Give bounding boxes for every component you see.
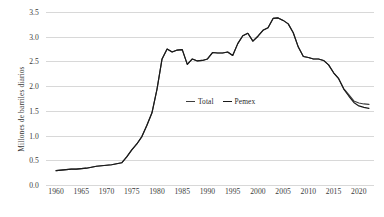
x-axis-tick: 1980 [149,187,165,196]
x-axis-tick-labels: 1960196519701975198019851990199520002005… [46,187,374,207]
legend-item-pemex[interactable]: Pemex [223,98,256,105]
x-axis-tick: 1970 [99,187,115,196]
gridline [46,185,374,186]
series-line-pemex [56,18,369,171]
y-axis-tick: 3.5 [29,8,39,17]
x-axis-tick: 1960 [48,187,64,196]
y-axis-tick: 2.0 [29,82,39,91]
x-axis-tick: 1985 [174,187,190,196]
x-axis-tick: 2020 [351,187,367,196]
y-axis-tick: 3.0 [29,32,39,41]
x-axis-tick: 2005 [275,187,291,196]
legend-label: Pemex [235,98,256,105]
x-axis-tick: 1975 [124,187,140,196]
x-axis-tick: 1965 [74,187,90,196]
y-axis-tick: 0.5 [29,156,39,165]
y-axis-tick: 1.0 [29,131,39,140]
legend-swatch-icon [223,101,232,102]
y-axis-tick: 0.0 [29,181,39,190]
series-line-total [56,18,369,171]
legend-swatch-icon [186,101,195,102]
x-axis-tick: 2000 [250,187,266,196]
x-axis-tick: 1995 [225,187,241,196]
legend-label: Total [198,98,214,105]
chart-figure: Millones de barriles diarios 0.00.51.01.… [0,0,384,217]
y-axis-tick: 2.5 [29,57,39,66]
x-axis-tick: 2010 [301,187,317,196]
x-axis-tick: 1990 [200,187,216,196]
y-axis-tick-labels: 0.00.51.01.52.02.53.03.5 [0,12,46,185]
legend-item-total[interactable]: Total [186,98,214,105]
chart-legend: TotalPemex [186,98,255,105]
x-axis-tick: 2015 [326,187,342,196]
y-axis-tick: 1.5 [29,106,39,115]
